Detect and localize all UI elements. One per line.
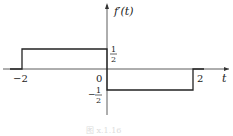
low-numerator: 1 xyxy=(96,86,101,95)
tick-pos2: 2 xyxy=(197,73,203,84)
x-axis-arrow-icon xyxy=(224,67,229,71)
tick-zero: 0 xyxy=(96,73,102,84)
figure: f′(t) t −2 0 2 1 2 − 1 2 图 x.1.16 xyxy=(0,0,233,136)
low-sign: − xyxy=(88,89,96,99)
figure-caption: 图 x.1.16 xyxy=(86,126,121,135)
high-numerator: 1 xyxy=(111,45,116,54)
step-function-plot: f′(t) t −2 0 2 1 2 − 1 2 图 x.1.16 xyxy=(0,0,233,136)
x-axis-label: t xyxy=(222,72,227,85)
y-axis-arrow-icon xyxy=(105,3,109,9)
low-denominator: 2 xyxy=(96,96,101,105)
function-graph xyxy=(10,49,204,90)
y-axis-label: f′(t) xyxy=(113,5,134,18)
high-denominator: 2 xyxy=(111,55,116,64)
tick-neg2: −2 xyxy=(13,73,28,84)
